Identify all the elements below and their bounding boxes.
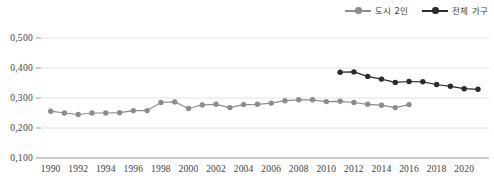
data-point-marker <box>365 74 370 79</box>
data-point-marker <box>76 112 81 117</box>
data-point-marker <box>89 110 94 115</box>
data-point-marker <box>186 106 191 111</box>
data-point-marker <box>461 86 466 91</box>
data-point-marker <box>324 99 329 104</box>
data-point-marker <box>103 110 108 115</box>
data-point-marker <box>379 76 384 81</box>
data-point-marker <box>448 84 453 89</box>
data-point-marker <box>310 97 315 102</box>
data-point-marker <box>337 99 342 104</box>
x-tick-label: 2000 <box>179 164 199 174</box>
gridlines <box>41 38 489 158</box>
data-point-marker <box>365 102 370 107</box>
x-axis-ticks: 1990199219941996199820002002200420062008… <box>41 164 474 174</box>
chart-plot-area: 0,5000,4000,3000,2000,100 19901992199419… <box>0 0 494 190</box>
data-point-marker <box>351 69 356 74</box>
data-point-marker <box>62 110 67 115</box>
data-point-marker <box>420 79 425 84</box>
y-tick-label: 0,100 <box>10 153 33 163</box>
x-tick-label: 1994 <box>96 164 116 174</box>
data-point-marker <box>475 87 480 92</box>
x-tick-label: 2018 <box>427 164 447 174</box>
data-point-marker <box>48 109 53 114</box>
x-tick-label: 2004 <box>234 164 254 174</box>
data-point-marker <box>434 82 439 87</box>
data-point-marker <box>379 103 384 108</box>
data-point-marker <box>172 99 177 104</box>
x-tick-label: 2014 <box>372 164 392 174</box>
x-tick-label: 2010 <box>316 164 336 174</box>
y-tick-label: 0,400 <box>10 63 33 73</box>
x-tick-label: 1998 <box>151 164 171 174</box>
x-tick-label: 1992 <box>68 164 88 174</box>
x-tick-label: 2002 <box>206 164 226 174</box>
data-point-marker <box>337 70 342 75</box>
x-tick-label: 1990 <box>41 164 61 174</box>
x-tick-label: 2020 <box>454 164 474 174</box>
y-tick-label: 0,500 <box>10 33 33 43</box>
x-tick-label: 1996 <box>123 164 143 174</box>
y-tick-label: 0,200 <box>10 123 33 133</box>
x-tick-label: 2016 <box>399 164 419 174</box>
data-point-marker <box>241 102 246 107</box>
data-point-marker <box>255 102 260 107</box>
data-point-marker <box>406 102 411 107</box>
y-tick-label: 0,300 <box>10 93 33 103</box>
chart-container: 도시 2인 전체 가구 0,5000,4000,3000,2000,100 19… <box>0 0 494 190</box>
data-point-marker <box>393 105 398 110</box>
data-point-marker <box>296 97 301 102</box>
data-point-marker <box>351 100 356 105</box>
data-point-marker <box>282 98 287 103</box>
data-point-marker <box>200 102 205 107</box>
y-axis-ticks: 0,5000,4000,3000,2000,100 <box>10 33 41 163</box>
x-tick-label: 2012 <box>344 164 364 174</box>
x-tick-label: 2008 <box>289 164 309 174</box>
data-point-marker <box>269 100 274 105</box>
series-all-households <box>337 69 480 92</box>
data-point-marker <box>393 80 398 85</box>
data-point-marker <box>158 100 163 105</box>
series-urban-two-person <box>48 97 412 117</box>
data-point-marker <box>213 102 218 107</box>
data-point-marker <box>131 108 136 113</box>
data-point-marker <box>227 105 232 110</box>
data-point-marker <box>406 79 411 84</box>
data-series-layer <box>48 69 481 117</box>
data-point-marker <box>144 108 149 113</box>
x-tick-label: 2006 <box>261 164 281 174</box>
data-point-marker <box>117 110 122 115</box>
